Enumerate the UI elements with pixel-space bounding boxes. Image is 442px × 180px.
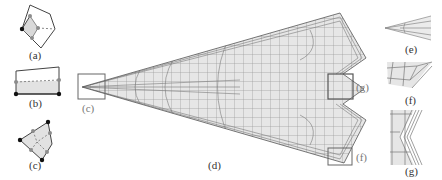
panel-c-element (18, 120, 52, 162)
panel-c-label: (c) (29, 160, 41, 171)
panel-e-detail (385, 16, 431, 40)
panel-e-label: (e) (405, 44, 417, 55)
panel-b-element (14, 67, 61, 96)
callout-label-g: (g) (356, 82, 369, 93)
panel-b-label: (b) (29, 98, 42, 109)
figure-canvas (0, 0, 442, 180)
panel-f-label: (f) (405, 95, 416, 106)
panel-a-label: (a) (29, 50, 41, 61)
callout-label-f: (f) (356, 152, 367, 163)
panel-g-label: (g) (405, 166, 418, 177)
callout-label-c: (c) (82, 103, 94, 114)
panel-a-element (20, 5, 55, 48)
panel-d-label: (d) (208, 160, 221, 171)
panel-f-detail (387, 62, 432, 88)
panel-g-detail (390, 110, 422, 165)
